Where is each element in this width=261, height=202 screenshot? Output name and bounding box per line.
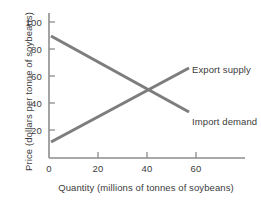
y-axis-title: Price (dollars per tonne of soybeans) bbox=[23, 12, 34, 172]
chart-container: 100 80 60 40 20 0 20 40 60 Price (dollar… bbox=[0, 0, 261, 202]
series-label-export-supply: Export supply bbox=[192, 64, 251, 75]
series-line-export-supply bbox=[51, 68, 189, 142]
x-tick-label-40: 40 bbox=[136, 163, 158, 174]
x-axis-ticks bbox=[98, 152, 196, 158]
x-tick-label-20: 20 bbox=[87, 163, 109, 174]
series-line-import-demand bbox=[51, 36, 189, 112]
x-tick-label-60: 60 bbox=[185, 163, 207, 174]
x-tick-label-0: 0 bbox=[38, 163, 60, 174]
x-axis-title: Quantity (millions of tonnes of soybeans… bbox=[46, 182, 246, 193]
series-label-import-demand: Import demand bbox=[192, 116, 257, 127]
